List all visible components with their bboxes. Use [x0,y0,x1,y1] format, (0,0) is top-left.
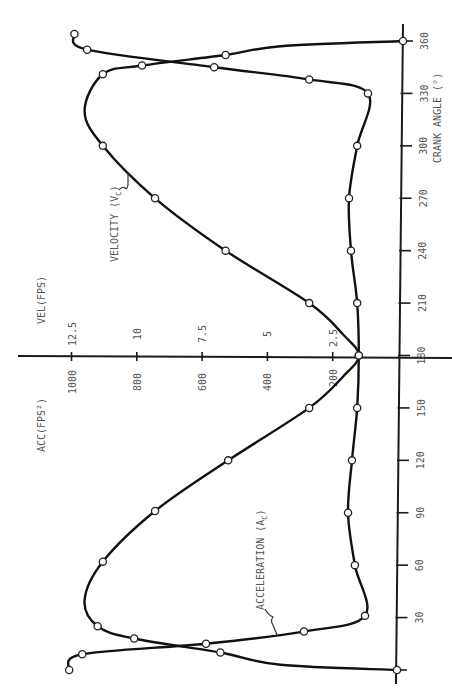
velocity-point [217,649,224,656]
crank-tick-label: 240 [417,242,428,260]
x-axis-title: CRANK ANGLE (°) [432,73,443,163]
acceleration-point [348,457,355,464]
crank-tick-label: 330 [419,84,430,102]
acceleration-point [354,299,361,306]
acc-tick-label: 1000 [67,370,78,394]
acceleration-curve [68,34,370,670]
vel-axis-title: VEL(FPS) [36,276,47,324]
velocity-point [138,62,145,69]
acceleration-point [66,666,73,673]
crank-tick-label: 90 [415,507,426,519]
acceleration-point [71,30,78,37]
acc-tick-label: 800 [132,373,143,391]
vel-tick-label: 2.5 [328,329,339,347]
velocity-point [99,558,106,565]
acceleration-point [347,247,354,254]
acceleration-label-group: ACCELERATION (AC) [255,509,277,635]
crank-tick-label: 180 [416,346,427,364]
velocity-leader [119,172,128,190]
crank-tick-label: 60 [414,559,425,571]
velocity-point [151,507,158,514]
acceleration-point [354,404,361,411]
acceleration-point [300,628,307,635]
vel-axis-label: VEL(FPS) [36,276,47,324]
velocity-point [222,247,229,254]
velocity-point [225,457,232,464]
acceleration-point [361,612,368,619]
velocity-point [151,195,158,202]
velocity-point [393,666,400,673]
crank-angle-axis [396,24,403,684]
velocity-point [306,299,313,306]
acceleration-point [211,64,218,71]
velocity-point [222,51,229,58]
acceleration-point [354,142,361,149]
axes [18,24,452,684]
acceleration-label: ACCELERATION (AC) [255,509,269,610]
acceleration-point [345,195,352,202]
acceleration-point [344,509,351,516]
vel-tick-label: 5 [262,331,273,337]
curves [68,34,403,670]
crank-tick-label: 300 [418,137,429,155]
data-markers [66,30,407,673]
crank-tick-label: 270 [418,189,429,207]
acc-axis-label: ACC(FPS²) [36,398,47,452]
vel-tick-label: 12.5 [67,322,78,346]
crank-tick-label: 30 [414,612,425,624]
crank-angle-axis-label: CRANK ANGLE (°) [432,73,443,163]
crank-tick-label: 150 [416,399,427,417]
acceleration-point [364,90,371,97]
velocity-label-group: VELOCITY (VC) [109,172,128,262]
acc-tick-label: 400 [262,373,273,391]
crank-motion-chart: 306090120150180210240270300330360 2002.5… [0,0,452,688]
velocity-point [306,404,313,411]
velocity-label: VELOCITY (VC) [109,186,123,262]
acc-axis-title: ACC(FPS²) [36,398,47,452]
crank-tick-label: 210 [417,294,428,312]
velocity-point [99,71,106,78]
velocity-point [94,623,101,630]
velocity-point [399,37,406,44]
crank-tick-label: 120 [415,451,426,469]
crank-tick-label: 360 [419,32,430,50]
vel-tick-label: 10 [132,328,143,340]
acceleration-leader [265,609,277,635]
vel-tick-label: 7.5 [197,325,208,343]
acceleration-point [79,651,86,658]
acceleration-point [84,46,91,53]
acceleration-point [306,76,313,83]
acc-tick-label: 600 [197,373,208,391]
acceleration-point [202,640,209,647]
value-axis [18,356,452,358]
velocity-point [131,635,138,642]
acceleration-point [351,562,358,569]
acceleration-point [355,352,362,359]
velocity-point [99,142,106,149]
